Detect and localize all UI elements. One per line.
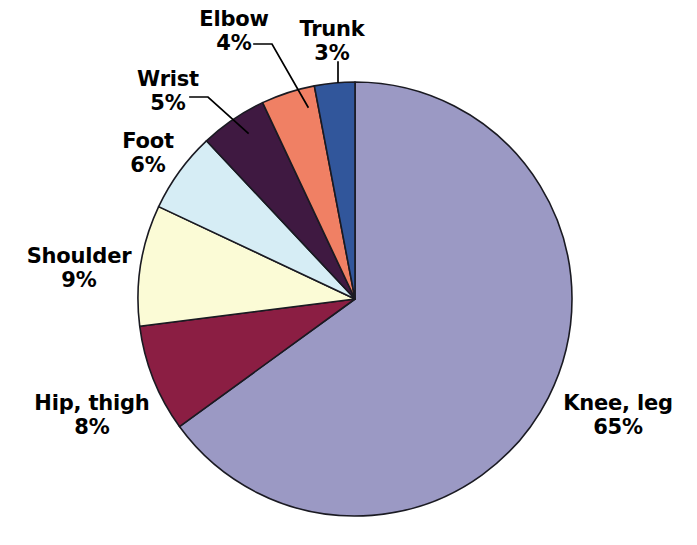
slice-label-trunk: Trunk 3%: [278, 18, 386, 65]
slice-label-hip-thigh-name: Hip, thigh: [22, 392, 162, 416]
slice-label-foot: Foot 6%: [98, 130, 198, 177]
slice-label-trunk-name: Trunk: [278, 18, 386, 42]
slice-label-elbow-value: 4%: [178, 32, 290, 56]
slice-label-foot-value: 6%: [98, 154, 198, 178]
slice-label-wrist-value: 5%: [112, 92, 224, 116]
pie-chart: Elbow 4% Trunk 3% Wrist 5% Foot 6% Shoul…: [0, 0, 697, 545]
slice-label-shoulder: Shoulder 9%: [14, 245, 144, 292]
pie-slice-group: [138, 82, 572, 516]
slice-label-hip-thigh-value: 8%: [22, 416, 162, 440]
slice-label-elbow-name: Elbow: [178, 8, 290, 32]
slice-label-knee-leg-value: 65%: [552, 416, 684, 440]
slice-label-shoulder-value: 9%: [14, 269, 144, 293]
slice-label-trunk-value: 3%: [278, 42, 386, 66]
slice-label-elbow: Elbow 4%: [178, 8, 290, 55]
slice-label-hip-thigh: Hip, thigh 8%: [22, 392, 162, 439]
slice-label-wrist: Wrist 5%: [112, 68, 224, 115]
slice-label-wrist-name: Wrist: [112, 68, 224, 92]
slice-label-shoulder-name: Shoulder: [14, 245, 144, 269]
slice-label-knee-leg-name: Knee, leg: [552, 392, 684, 416]
slice-label-foot-name: Foot: [98, 130, 198, 154]
slice-label-knee-leg: Knee, leg 65%: [552, 392, 684, 439]
